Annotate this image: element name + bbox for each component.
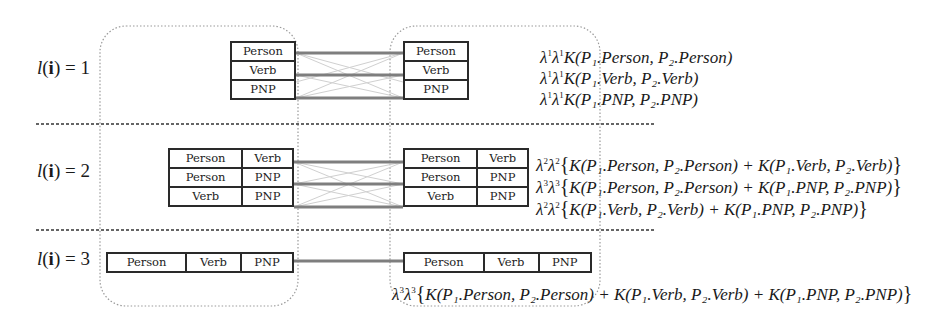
- table-row: PNP: [404, 80, 468, 99]
- cell: PNP: [231, 80, 295, 99]
- cell: Verb: [477, 149, 528, 168]
- cell: PNP: [242, 187, 293, 206]
- level-2-connectors: [294, 162, 403, 207]
- cell: Person: [231, 42, 295, 61]
- cell: Verb: [242, 149, 293, 168]
- level-2-right-table: PersonVerb PersonPNP VerbPNP: [403, 148, 529, 207]
- table-row: PersonVerb: [169, 149, 293, 168]
- cell: Verb: [404, 61, 468, 80]
- cell: Person: [169, 168, 242, 187]
- cell: Person: [404, 168, 477, 187]
- level-3-left-table: PersonVerbPNP: [106, 252, 294, 273]
- cell: PNP: [241, 253, 293, 272]
- cell: PNP: [477, 168, 528, 187]
- level-1-connectors: [296, 53, 403, 98]
- table-row: PNP: [231, 80, 295, 99]
- cell: PNP: [404, 80, 468, 99]
- level-1-label: l(i) = 1: [37, 57, 90, 79]
- level-3-formula-1: λ3λ3{K(P₁.Person, P₂.Person) + K(P₁.Verb…: [392, 280, 912, 305]
- level-3-right-table: PersonVerbPNP: [403, 252, 592, 273]
- table-row: PersonVerb: [404, 149, 528, 168]
- table-row: Person: [231, 42, 295, 61]
- cell: PNP: [242, 168, 293, 187]
- table-row: Verb: [404, 61, 468, 80]
- table-row: PersonVerbPNP: [107, 253, 293, 272]
- level-3-label: l(i) = 3: [37, 248, 90, 270]
- table-row: Verb: [231, 61, 295, 80]
- level-2-left-table: PersonVerb PersonPNP VerbPNP: [168, 148, 294, 207]
- cell: Person: [404, 253, 484, 272]
- table-row: PersonVerbPNP: [404, 253, 591, 272]
- cell: Person: [404, 149, 477, 168]
- cell: Person: [404, 42, 468, 61]
- level-1-left-table: Person Verb PNP: [230, 41, 296, 100]
- table-row: VerbPNP: [404, 187, 528, 206]
- cell: PNP: [539, 253, 591, 272]
- cell: Person: [107, 253, 186, 272]
- table-row: PersonPNP: [169, 168, 293, 187]
- cell: Verb: [186, 253, 241, 272]
- level-1-formula-3: λ1λ1K(P₁.PNP, P₂.PNP): [540, 85, 698, 110]
- level-2-formula-3: λ2λ2{K(P₁.Verb, P₂.Verb) + K(P₁.PNP, P₂.…: [536, 195, 868, 220]
- table-row: Person: [404, 42, 468, 61]
- level-2-label: l(i) = 2: [37, 160, 90, 182]
- cell: Verb: [404, 187, 477, 206]
- cell: Person: [169, 149, 242, 168]
- cell: Verb: [484, 253, 539, 272]
- cell: Verb: [169, 187, 242, 206]
- table-row: PersonPNP: [404, 168, 528, 187]
- table-row: VerbPNP: [169, 187, 293, 206]
- level-1-right-table: Person Verb PNP: [403, 41, 469, 100]
- cell: Verb: [231, 61, 295, 80]
- cell: PNP: [477, 187, 528, 206]
